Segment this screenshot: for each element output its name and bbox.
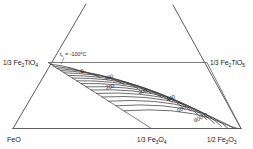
pseudobrookite-o-sub: 5 bbox=[242, 62, 245, 68]
curie-leader-line bbox=[61, 58, 64, 65]
ternary-phase-diagram: tc = -100°C 0 100 200 300 400 500 600°C … bbox=[0, 0, 253, 149]
label-magnetite: 1/3 Fe3O4 bbox=[137, 135, 167, 145]
contour-label-100: 100 bbox=[104, 73, 114, 81]
ulvospinel-o-sub: 4 bbox=[35, 62, 38, 68]
contour-label-200: 200 bbox=[105, 83, 115, 91]
isotherm-600 bbox=[116, 105, 234, 128]
ulvospinel-fe: Fe bbox=[13, 58, 21, 67]
contour-label-300: 300 bbox=[138, 87, 148, 95]
left-join-line bbox=[48, 63, 152, 129]
isotherm-550 bbox=[109, 100, 229, 128]
diagram-canvas: tc = -100°C 0 100 200 300 400 500 600°C … bbox=[0, 0, 253, 149]
curie-temperature-annotation: tc = -100°C bbox=[60, 51, 87, 58]
label-pseudobrookite: 1/3 Fe2TiO5 bbox=[210, 58, 245, 68]
triangle-frame bbox=[13, 4, 241, 129]
isotherm-400 bbox=[91, 90, 207, 120]
curie-value: -100°C bbox=[70, 51, 87, 57]
hematite-o-sub: 3 bbox=[234, 139, 237, 145]
contour-label-0: 0 bbox=[80, 67, 84, 73]
label-wustite: FeO bbox=[7, 135, 21, 144]
contour-label-600: 600°C bbox=[193, 111, 209, 123]
label-hematite: 1/2 Fe2O3 bbox=[207, 135, 237, 145]
pseudobrookite-fe: Fe bbox=[220, 58, 228, 67]
hematite-fe: Fe bbox=[217, 135, 225, 144]
label-ulvospinel: 1/3 Fe2TiO4 bbox=[3, 58, 38, 68]
curie-pointer bbox=[61, 58, 64, 65]
curie-isotherm-set bbox=[51, 64, 239, 128]
magnetite-fe: Fe bbox=[147, 135, 155, 144]
magnetite-o-sub: 4 bbox=[164, 139, 167, 145]
